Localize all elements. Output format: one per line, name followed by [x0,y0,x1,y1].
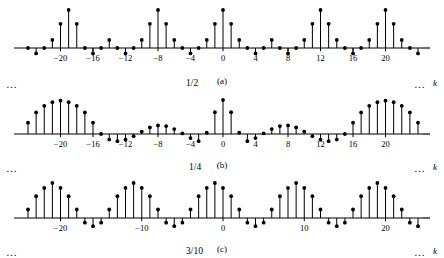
svg-text:−8: −8 [153,139,162,149]
panel-c: −20−1001020 3/10 … … k (c) [0,170,444,254]
svg-text:−10: −10 [135,223,148,233]
svg-text:16: 16 [349,139,358,149]
panel-c-caption: (c) [0,245,444,254]
svg-text:4: 4 [253,139,258,149]
panel-b-caption: (b) [0,161,444,170]
svg-text:−16: −16 [86,53,99,63]
panel-c-amplitude-label: 3/10 [186,246,203,256]
panel-c-left-ellipsis: … [6,246,18,258]
svg-text:−4: −4 [186,53,196,63]
svg-text:8: 8 [286,139,290,149]
svg-text:20: 20 [381,53,390,63]
svg-text:−20: −20 [54,223,67,233]
panel-a-caption: (a) [0,77,444,86]
panel-c-plot: −20−1001020 3/10 … … k [0,170,444,246]
svg-text:−20: −20 [54,53,67,63]
svg-text:−20: −20 [54,139,67,149]
svg-text:16: 16 [349,53,358,63]
panel-b: −20−16−12−8−4048121620 1/4 … … k (b) [0,86,444,170]
svg-text:−12: −12 [119,53,132,63]
panel-c-axis-label: k [433,246,437,256]
svg-text:12: 12 [316,53,325,63]
svg-text:12: 12 [316,139,325,149]
svg-text:20: 20 [381,139,390,149]
panel-b-svg: −20−16−12−8−4048121620 [0,86,444,162]
panel-c-right-ellipsis: … [414,246,426,258]
panel-a-plot: −20−16−12−8−4048121620 1/2 … … k [0,0,444,78]
svg-text:0: 0 [221,139,225,149]
svg-text:−12: −12 [119,139,132,149]
svg-text:4: 4 [253,53,258,63]
svg-text:20: 20 [381,223,390,233]
panel-b-plot: −20−16−12−8−4048121620 1/4 … … k [0,86,444,162]
svg-text:−8: −8 [153,53,162,63]
svg-text:10: 10 [300,223,309,233]
svg-text:0: 0 [221,223,225,233]
svg-text:−4: −4 [186,139,196,149]
svg-text:−16: −16 [86,139,99,149]
svg-text:0: 0 [221,53,225,63]
panel-a: −20−16−12−8−4048121620 1/2 … … k (a) [0,0,444,86]
figure-stem-plots: −20−16−12−8−4048121620 1/2 … … k (a) −20… [0,0,444,258]
panel-a-svg: −20−16−12−8−4048121620 [0,0,444,78]
svg-text:8: 8 [286,53,290,63]
panel-c-svg: −20−1001020 [0,170,444,246]
